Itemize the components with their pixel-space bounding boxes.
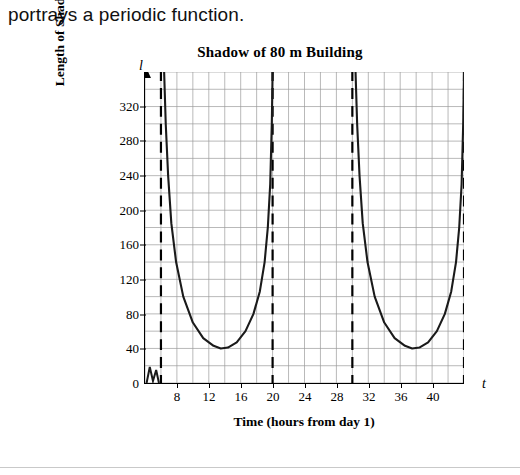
x-axis-symbol: t xyxy=(482,376,486,392)
plot-area: l t 040801201602002402803208121620242832… xyxy=(144,72,464,384)
y-tick-label: 200 xyxy=(120,203,140,219)
y-tick-label: 0 xyxy=(133,376,140,392)
y-tick-label: 80 xyxy=(126,307,139,323)
x-tick-mark xyxy=(433,383,434,388)
y-tick-label: 120 xyxy=(120,272,140,288)
x-tick-mark xyxy=(241,383,242,388)
y-tick-mark xyxy=(140,349,146,350)
x-tick-mark xyxy=(401,383,402,388)
y-tick-label: 320 xyxy=(120,99,140,115)
y-tick-mark xyxy=(140,141,146,142)
y-tick-mark xyxy=(140,176,146,177)
y-tick-mark xyxy=(140,106,146,107)
y-tick-mark xyxy=(140,314,146,315)
y-tick-label: 40 xyxy=(126,341,139,357)
x-tick-mark xyxy=(369,383,370,388)
chart-figure: Shadow of 80 m Building Length of Shadow… xyxy=(0,36,520,456)
x-tick-mark xyxy=(273,383,274,388)
intro-text: portrays a periodic function. xyxy=(8,4,244,26)
y-axis-symbol: l xyxy=(139,58,143,74)
y-tick-label: 280 xyxy=(120,133,140,149)
x-axis-title: Time (hours from day 1) xyxy=(144,414,464,430)
x-tick-label: 32 xyxy=(363,389,376,405)
bottom-divider xyxy=(0,467,520,468)
x-tick-mark xyxy=(209,383,210,388)
x-tick-mark xyxy=(337,383,338,388)
x-tick-label: 8 xyxy=(174,389,181,405)
y-tick-mark xyxy=(140,280,146,281)
y-axis-title: Length of Shadow (m) xyxy=(52,0,68,122)
x-tick-label: 20 xyxy=(267,389,280,405)
y-tick-label: 160 xyxy=(120,237,140,253)
x-tick-label: 28 xyxy=(331,389,344,405)
chart-grid xyxy=(145,72,464,383)
x-tick-label: 24 xyxy=(299,389,312,405)
x-tick-label: 12 xyxy=(203,389,216,405)
x-tick-label: 36 xyxy=(395,389,408,405)
y-tick-label: 240 xyxy=(120,168,140,184)
x-tick-mark xyxy=(305,383,306,388)
y-tick-mark xyxy=(140,210,146,211)
y-tick-mark xyxy=(140,245,146,246)
page-root: portrays a periodic function. Shadow of … xyxy=(0,0,520,475)
chart-title: Shadow of 80 m Building xyxy=(0,44,520,61)
x-tick-mark xyxy=(177,383,178,388)
x-tick-label: 16 xyxy=(235,389,248,405)
x-tick-label: 40 xyxy=(427,389,440,405)
chart-curves xyxy=(145,72,464,383)
